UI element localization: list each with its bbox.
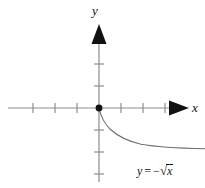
equation-minus-sign: − [153,165,160,177]
equation-equals-sign: = [142,165,153,177]
equation-radicand: x [166,164,173,179]
curve-negative-sqrt-x [99,108,205,149]
y-axis-label: y [92,4,98,17]
x-axis-arrowhead-icon [169,101,189,116]
origin-point [96,105,103,112]
equation-radical-group: √ x [160,164,173,179]
plot-canvas [0,0,205,188]
graph-figure: y x y = − √ x [0,0,205,188]
x-axis-label: x [192,101,198,114]
curve-equation-label: y = − √ x [137,164,173,179]
y-axis-arrowhead-icon [92,24,107,44]
